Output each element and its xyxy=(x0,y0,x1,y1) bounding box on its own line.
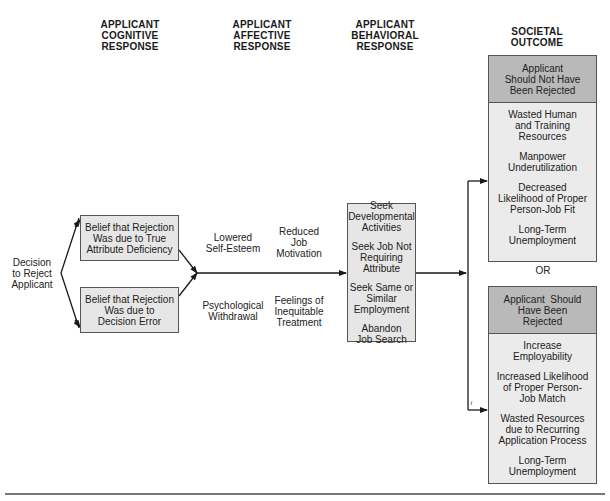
outcome-item: Long-Term Unemployment xyxy=(493,224,592,246)
item-line: Application Process xyxy=(493,435,592,446)
item-line: Abandon xyxy=(348,323,415,334)
label-line: Feelings of xyxy=(268,295,330,306)
item-line: and Training xyxy=(493,120,592,131)
outcome-item: Manpower Underutilization xyxy=(493,151,592,173)
label-line: Decision xyxy=(4,257,60,268)
title-line: Should Not Have xyxy=(493,74,592,85)
outcome-item: Wasted Resources due to Recurring Applic… xyxy=(493,413,592,446)
behavioral-item: Seek Job Not Requiring Attribute xyxy=(348,241,415,274)
label-line: Withdrawal xyxy=(200,311,266,322)
title-line: Applicant xyxy=(493,63,592,74)
item-line: Employability xyxy=(493,351,592,362)
item-line: Decreased xyxy=(493,182,592,193)
item-line: Wasted Human xyxy=(493,109,592,120)
item-line: Seek xyxy=(348,200,415,211)
behavioral-item: Seek Developmental Activities xyxy=(348,200,415,233)
title-line: Been Rejected xyxy=(493,85,592,96)
box-line: Decision Error xyxy=(81,316,178,327)
box-line: Belief that Rejection xyxy=(81,222,178,233)
item-line: Job Match xyxy=(493,393,592,404)
outcome-item: Increase Employability xyxy=(493,340,592,362)
item-line: Unemployment xyxy=(493,235,592,246)
outcome-item: Decreased Likelihood of Proper Person-Jo… xyxy=(493,182,592,215)
bottom-divider xyxy=(5,493,605,495)
label-line: Job xyxy=(268,237,330,248)
behavioral-item: Abandon Job Search xyxy=(348,323,415,345)
item-line: Job Search xyxy=(348,334,415,345)
label-line: Treatment xyxy=(268,317,330,328)
item-line: Increased Likelihood xyxy=(493,371,592,382)
label-line: Inequitable xyxy=(268,306,330,317)
outcome-not-rejected-items: Wasted Human and Training Resources Manp… xyxy=(489,103,596,261)
item-line: Underutilization xyxy=(493,162,592,173)
label-line: Applicant xyxy=(4,279,60,290)
outcome-not-rejected-box: Applicant Should Not Have Been Rejected … xyxy=(488,55,597,262)
label-line: Self-Esteem xyxy=(200,243,266,254)
title-line: Have Been xyxy=(493,305,592,316)
belief-attribute-deficiency-box: Belief that Rejection Was due to True At… xyxy=(80,215,179,261)
split-lines xyxy=(61,218,79,328)
outcome-rejected-items: Increase Employability Increased Likelih… xyxy=(489,334,596,492)
title-line: Rejected xyxy=(493,316,592,327)
box-line: Attribute Deficiency xyxy=(81,244,178,255)
reduced-job-motivation-label: Reduced Job Motivation xyxy=(268,226,330,259)
item-line: due to Recurring xyxy=(493,424,592,435)
item-line: Person-Job Fit xyxy=(493,204,592,215)
belief-decision-error-box: Belief that Rejection Was due to Decisio… xyxy=(80,287,179,333)
item-line: Increase xyxy=(493,340,592,351)
box-line: Was due to xyxy=(81,305,178,316)
behavioral-item: Seek Same or Similar Employment xyxy=(348,282,415,315)
item-line: Requiring Attribute xyxy=(348,252,415,274)
item-line: Resources xyxy=(493,131,592,142)
label-line: to Reject xyxy=(4,268,60,279)
item-line: Long-Term xyxy=(493,455,592,466)
label-line: Reduced xyxy=(268,226,330,237)
box-line: Was due to True xyxy=(81,233,178,244)
outcome-not-rejected-title: Applicant Should Not Have Been Rejected xyxy=(489,56,596,103)
item-line: Seek Job Not xyxy=(348,241,415,252)
lowered-self-esteem-label: Lowered Self-Esteem xyxy=(200,232,266,254)
item-line: of Proper Person- xyxy=(493,382,592,393)
item-line: Activities xyxy=(348,222,415,233)
title-line: Applicant Should xyxy=(493,294,592,305)
outcome-item: Increased Likelihood of Proper Person- J… xyxy=(493,371,592,404)
label-line: Lowered xyxy=(200,232,266,243)
box-line: Belief that Rejection xyxy=(81,294,178,305)
psychological-withdrawal-label: Psychological Withdrawal xyxy=(200,300,266,322)
item-line: Unemployment xyxy=(493,466,592,477)
or-label: OR xyxy=(528,265,558,276)
item-line: Manpower xyxy=(493,151,592,162)
outcome-item: Wasted Human and Training Resources xyxy=(493,109,592,142)
label-line: Motivation xyxy=(268,248,330,259)
item-line: Likelihood of Proper xyxy=(493,193,592,204)
label-line: Psychological xyxy=(200,300,266,311)
decision-to-reject-label: Decision to Reject Applicant xyxy=(4,257,60,290)
item-line: Long-Term xyxy=(493,224,592,235)
outcome-rejected-box: Applicant Should Have Been Rejected Incr… xyxy=(488,286,597,484)
item-line: Similar Employment xyxy=(348,293,415,315)
item-line: Developmental xyxy=(348,211,415,222)
item-line: Wasted Resources xyxy=(493,413,592,424)
outcome-rejected-title: Applicant Should Have Been Rejected xyxy=(489,287,596,334)
inequitable-treatment-label: Feelings of Inequitable Treatment xyxy=(268,295,330,328)
behavioral-response-box: Seek Developmental Activities Seek Job N… xyxy=(347,203,416,342)
item-line: Seek Same or xyxy=(348,282,415,293)
outcome-item: Long-Term Unemployment xyxy=(493,455,592,477)
